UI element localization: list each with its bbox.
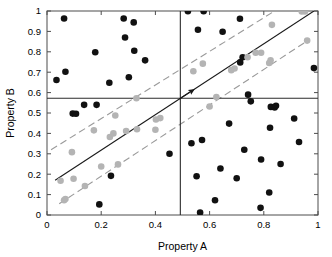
data-point-correlated-points: [110, 130, 117, 137]
data-point-scattered-points: [81, 102, 88, 109]
data-point-correlated-points: [213, 94, 220, 101]
data-point-scattered-points: [106, 80, 113, 87]
data-point-scattered-points: [241, 146, 248, 153]
data-point-correlated-points: [112, 112, 119, 119]
data-point-correlated-points: [304, 37, 311, 44]
data-point-scattered-points: [273, 103, 280, 110]
data-point-scattered-points: [96, 201, 103, 208]
data-point-scattered-points: [199, 137, 206, 144]
data-point-correlated-points: [62, 196, 69, 203]
data-point-correlated-points: [115, 161, 122, 168]
data-point-scattered-points: [166, 151, 173, 158]
data-point-correlated-points: [152, 126, 159, 133]
data-point-scattered-points: [296, 139, 303, 146]
data-point-correlated-points: [157, 115, 164, 122]
data-point-scattered-points: [212, 197, 219, 204]
data-point-correlated-points: [200, 60, 207, 67]
data-point-scattered-points: [108, 173, 115, 180]
data-point-correlated-points: [91, 127, 98, 134]
data-point-scattered-points: [226, 120, 233, 127]
data-point-scattered-points: [93, 102, 100, 109]
data-point-correlated-points: [123, 128, 130, 135]
y-axis-title: Property B: [4, 88, 16, 138]
y-tick-label: 0.4: [28, 128, 41, 139]
y-tick-label: 0: [36, 209, 41, 220]
data-point-scattered-points: [258, 156, 265, 163]
x-tick-label: 0.8: [257, 219, 270, 230]
x-tick-label: 0.2: [95, 219, 108, 230]
data-point-correlated-points: [134, 126, 141, 133]
data-point-scattered-points: [122, 34, 129, 41]
data-point-scattered-points: [61, 15, 68, 22]
data-point-scattered-points: [197, 209, 204, 216]
data-point-scattered-points: [277, 161, 284, 168]
plot-canvas: 00.20.40.60.81 00.10.20.30.40.50.60.70.8…: [0, 0, 332, 257]
data-point-correlated-points: [69, 149, 76, 156]
data-point-scattered-points: [291, 115, 298, 122]
data-point-scattered-points: [247, 98, 254, 105]
data-point-scattered-points: [245, 91, 252, 98]
y-tick-label: 0.6: [28, 87, 41, 98]
data-point-scattered-points: [131, 47, 138, 54]
data-point-scattered-points: [92, 49, 99, 56]
data-point-scattered-points: [257, 205, 264, 212]
figure-background: [0, 0, 332, 257]
data-point-correlated-points: [244, 54, 251, 61]
data-point-correlated-points: [267, 57, 274, 64]
data-point-scattered-points: [142, 57, 149, 64]
data-point-correlated-points: [82, 183, 89, 190]
y-tick-label: 0.7: [28, 67, 41, 78]
data-point-scattered-points: [188, 140, 195, 147]
data-point-scattered-points: [217, 165, 224, 172]
y-tick-label: 0.2: [28, 169, 41, 180]
data-point-correlated-points: [231, 65, 238, 72]
data-point-correlated-points: [57, 177, 64, 184]
data-point-correlated-points: [269, 22, 276, 29]
y-tick-label: 0.8: [28, 46, 41, 57]
data-point-scattered-points: [53, 77, 60, 84]
data-point-scattered-points: [193, 173, 200, 180]
data-point-correlated-points: [98, 163, 105, 170]
y-tick-label: 0.1: [28, 189, 41, 200]
data-point-scattered-points: [126, 74, 133, 81]
x-axis-title: Property A: [158, 240, 207, 252]
y-tick-label: 0.9: [28, 26, 41, 37]
data-point-scattered-points: [237, 15, 244, 22]
y-tick-label: 0.5: [28, 107, 41, 118]
data-point-scattered-points: [266, 189, 273, 196]
data-point-scattered-points: [195, 26, 202, 33]
data-point-correlated-points: [133, 95, 140, 102]
data-point-correlated-points: [258, 50, 265, 57]
data-point-correlated-points: [70, 175, 77, 182]
data-point-scattered-points: [120, 15, 127, 22]
data-point-scattered-points: [62, 68, 69, 75]
data-point-scattered-points: [311, 65, 318, 72]
data-point-scattered-points: [73, 111, 80, 118]
x-tick-label: 1: [315, 219, 320, 230]
data-point-correlated-points: [190, 68, 197, 75]
data-point-scattered-points: [267, 124, 274, 131]
scatter-plot-figure: 00.20.40.60.81 00.10.20.30.40.50.60.70.8…: [0, 0, 332, 257]
x-tick-label: 0.4: [149, 219, 162, 230]
y-tick-label: 0.3: [28, 148, 41, 159]
x-tick-label: 0: [44, 219, 49, 230]
data-point-scattered-points: [219, 29, 226, 36]
x-tick-label: 0.6: [203, 219, 216, 230]
data-point-scattered-points: [130, 19, 137, 26]
data-point-correlated-points: [206, 103, 213, 110]
y-tick-label: 1: [36, 5, 41, 16]
data-point-scattered-points: [233, 175, 240, 182]
